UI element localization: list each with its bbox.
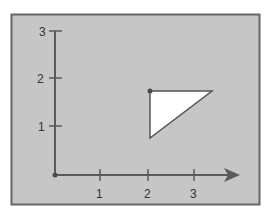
triangle-vertex-point <box>148 89 153 94</box>
coordinate-diagram: 3 2 1 1 2 3 <box>0 0 272 212</box>
y-tick-label-3: 3 <box>39 25 46 39</box>
origin-point <box>53 173 58 178</box>
y-tick-label-1: 1 <box>38 120 45 134</box>
x-tick-label-2: 2 <box>144 187 151 201</box>
x-tick-label-3: 3 <box>190 187 197 201</box>
x-tick-label-1: 1 <box>96 187 103 201</box>
y-tick-label-2: 2 <box>37 72 44 86</box>
